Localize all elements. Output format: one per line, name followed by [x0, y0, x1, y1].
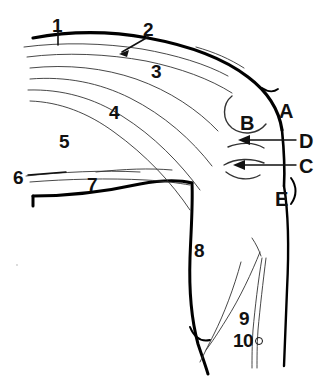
medial-arm-contour — [190, 183, 208, 374]
label-10-circle-marker — [255, 337, 263, 345]
leader-arrowhead-c — [233, 160, 245, 170]
axilla-contour — [33, 181, 192, 196]
lateral-arm-contour-lower — [284, 186, 288, 366]
label-e: E — [275, 189, 288, 209]
e-marker-arc — [291, 178, 296, 204]
stray-speck — [16, 264, 18, 266]
arm-inner-line-5 — [252, 238, 261, 256]
outer-contour-group — [33, 33, 296, 374]
label-7: 7 — [87, 175, 98, 194]
interior-line-group — [24, 44, 266, 368]
label-1: 1 — [52, 16, 63, 35]
medial-arm-bottom-hook — [190, 327, 210, 340]
label-3: 3 — [151, 62, 162, 81]
label-8: 8 — [194, 241, 205, 260]
lateral-arm-contour-upper — [282, 130, 284, 186]
label-b: B — [240, 113, 254, 133]
label-10: 10 — [233, 331, 253, 350]
anatomical-figure: 1 2 3 4 5 6 7 8 9 10 A B C D E — [0, 0, 329, 381]
arm-inner-line-3 — [257, 258, 266, 368]
fascia-line-2 — [27, 54, 232, 93]
label-c: C — [299, 156, 313, 176]
label-a: A — [279, 101, 293, 121]
label-2: 2 — [143, 20, 154, 39]
sub-b-arc-3 — [226, 172, 260, 179]
fascia-line-1 — [24, 44, 228, 76]
label-d: D — [299, 131, 313, 151]
label-5: 5 — [59, 132, 70, 151]
fascia-line-3 — [30, 66, 218, 131]
label-6: 6 — [13, 168, 24, 187]
label-4: 4 — [109, 103, 120, 122]
label-9: 9 — [239, 309, 250, 328]
leader-line-6 — [28, 172, 66, 175]
sub-b-arc-1 — [228, 143, 264, 148]
